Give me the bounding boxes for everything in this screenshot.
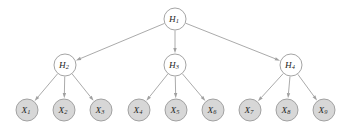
edge-h4-to-x9 — [298, 74, 314, 96]
node-x3[interactable]: X3 — [90, 99, 112, 121]
edge-h4-to-x8 — [289, 76, 290, 93]
edge-h3-to-x6 — [182, 74, 202, 97]
node-x4[interactable]: X4 — [128, 99, 150, 121]
arrowhead-h1-to-h3 — [173, 48, 176, 53]
node-layer: H1H2H3H4X1X2X3X4X5X6X7X8X9 — [16, 8, 335, 121]
node-x8[interactable]: X8 — [276, 99, 298, 121]
edge-h3-to-x4 — [150, 74, 168, 97]
edge-h4-to-x7 — [261, 74, 283, 98]
edge-h2-to-x3 — [72, 74, 90, 97]
node-x5[interactable]: X5 — [165, 99, 187, 121]
tree-diagram: H1H2H3H4X1X2X3X4X5X6X7X8X9 — [0, 0, 352, 131]
edge-h1-to-h4 — [186, 23, 276, 58]
node-h1[interactable]: H1 — [164, 8, 186, 30]
edge-h2-to-x1 — [38, 74, 58, 97]
arrowhead-h3-to-x5 — [174, 93, 177, 98]
node-x6[interactable]: X6 — [202, 99, 224, 121]
edge-h1-to-h2 — [81, 23, 165, 58]
node-h2[interactable]: H2 — [54, 54, 76, 76]
node-h4[interactable]: H4 — [280, 54, 302, 76]
arrowhead-h2-to-x2 — [63, 93, 66, 98]
arrowhead-h4-to-x8 — [287, 93, 290, 98]
node-x7[interactable]: X7 — [239, 99, 261, 121]
node-x2[interactable]: X2 — [53, 99, 75, 121]
arrowhead-h1-to-h2 — [76, 57, 81, 61]
arrowhead-h1-to-h4 — [275, 57, 280, 61]
node-x1[interactable]: X1 — [16, 99, 38, 121]
graph-canvas: H1H2H3H4X1X2X3X4X5X6X7X8X9 — [0, 0, 352, 131]
node-x9[interactable]: X9 — [313, 99, 335, 121]
node-h3[interactable]: H3 — [164, 54, 186, 76]
